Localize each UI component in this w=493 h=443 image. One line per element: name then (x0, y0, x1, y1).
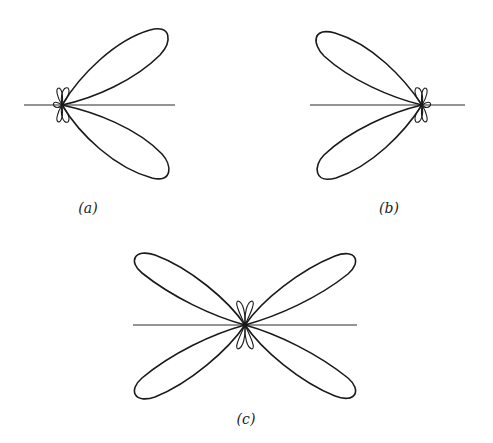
main-lobe-lower-b (317, 105, 422, 179)
main-lobe-lower-right-c (245, 325, 356, 398)
minor-lobe-c3 (237, 325, 245, 349)
figure: (a) (b) (c) (0, 0, 493, 443)
pattern-c (133, 253, 357, 399)
minor-lobe-c2 (245, 301, 253, 325)
panel-label-c: (c) (237, 411, 256, 427)
minor-lobe-c1 (237, 301, 245, 325)
main-lobe-lower-left-c (134, 325, 245, 399)
main-lobe-upper-left-c (134, 253, 245, 325)
main-lobe-upper-a (62, 29, 168, 105)
main-lobe-upper-right-c (245, 254, 356, 325)
panel-label-b: (b) (379, 200, 399, 216)
main-lobe-lower-a (62, 105, 169, 179)
main-lobe-upper-b (316, 32, 422, 105)
minor-lobe-c4 (245, 325, 253, 349)
radiation-patterns (0, 0, 493, 443)
panel-label-a: (a) (78, 200, 97, 216)
pattern-a (24, 29, 175, 179)
pattern-b (310, 32, 465, 179)
